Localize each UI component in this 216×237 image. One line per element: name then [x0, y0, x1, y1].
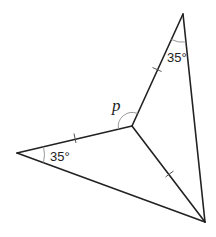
edge-center-bottom [132, 126, 205, 222]
edge-top-bottom [183, 14, 205, 222]
angle-label-top: 35° [167, 50, 187, 65]
tick-mark-center-left [74, 134, 76, 144]
angle-arc-top [172, 40, 186, 43]
edge-left-bottom [17, 153, 205, 222]
angle-label-p: p [111, 96, 121, 115]
geometry-diagram: 35° 35° p [0, 0, 216, 237]
angle-arc-left [44, 147, 45, 163]
edge-center-left [17, 126, 132, 153]
angle-label-left: 35° [50, 149, 70, 164]
